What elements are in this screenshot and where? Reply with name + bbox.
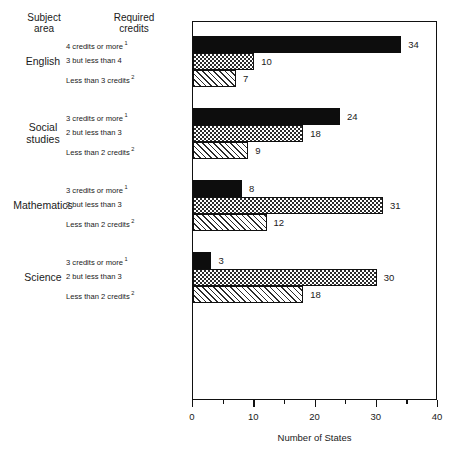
- plot-area: 34107241898311233018: [192, 21, 437, 400]
- x-axis-tick-label: 40: [432, 411, 443, 422]
- bar-social-studies-2: [193, 142, 248, 159]
- x-axis-tick-major: [253, 400, 254, 407]
- credit-row-label-text: Less than 3 credits: [66, 76, 130, 85]
- bar-english-0: [193, 36, 401, 53]
- credit-row-footnote-marker: 1: [124, 184, 127, 190]
- row-labels-column: 4 credits or more13 but less than 4Less …: [0, 0, 192, 468]
- subject-name-english: English: [4, 55, 82, 67]
- x-axis-tick-label: 0: [189, 411, 194, 422]
- credit-row-label-text: Less than 2 credits: [66, 148, 130, 157]
- subject-name-line1: Mathematics: [4, 199, 82, 211]
- bar-english-2: [193, 70, 236, 87]
- credit-row-label-text: 3 credits or more: [66, 258, 123, 267]
- bar-mathematics-1: [193, 197, 383, 214]
- bar-science-2: [193, 286, 303, 303]
- credit-row-label: Less than 2 credits2: [66, 217, 184, 229]
- x-axis-tick-minor: [284, 400, 285, 404]
- x-axis-tick-label: 30: [370, 411, 381, 422]
- bar-science-1: [193, 269, 377, 286]
- bar-social-studies-0: [193, 108, 340, 125]
- bar-value-label: 30: [384, 272, 395, 283]
- credit-row-footnote-marker: 1: [124, 112, 127, 118]
- subject-name-science: Science: [4, 271, 82, 283]
- bar-social-studies-1: [193, 125, 303, 142]
- credit-row-footnote-marker: 1: [124, 256, 127, 262]
- x-axis-tick-minor: [345, 400, 346, 404]
- credit-row-label: 3 credits or more1: [66, 183, 184, 195]
- x-axis-title: Number of States: [192, 432, 437, 443]
- credit-row-label: 2 but less than 3: [66, 128, 184, 137]
- bar-value-label: 10: [261, 56, 272, 67]
- credit-row-label-text: 3 credits or more: [66, 186, 123, 195]
- subject-name-line2: studies: [4, 133, 82, 145]
- credit-row-label: 2 but less than 3: [66, 272, 184, 281]
- bars-layer: 34107241898311233018: [193, 22, 436, 399]
- credit-row-label: 3 credits or more1: [66, 111, 184, 123]
- bar-value-label: 34: [408, 39, 419, 50]
- bar-mathematics-0: [193, 180, 242, 197]
- bar-english-1: [193, 53, 254, 70]
- x-axis-tick-minor: [406, 400, 407, 404]
- x-axis-tick-label: 10: [248, 411, 259, 422]
- credit-row-footnote-marker: 2: [131, 146, 134, 152]
- credit-row-label-text: Less than 2 credits: [66, 292, 130, 301]
- x-axis-tick-major: [437, 400, 438, 407]
- credit-row-footnote-marker: 2: [131, 74, 134, 80]
- x-axis-tick-minor: [223, 400, 224, 404]
- bar-mathematics-2: [193, 214, 267, 231]
- bar-value-label: 24: [347, 111, 358, 122]
- subject-name-social-studies: Socialstudies: [4, 121, 82, 145]
- bar-value-label: 18: [310, 289, 321, 300]
- bar-value-label: 3: [218, 255, 223, 266]
- x-axis-tick-label: 20: [309, 411, 320, 422]
- credit-row-label: Less than 3 credits2: [66, 73, 184, 85]
- credit-row-label: Less than 2 credits2: [66, 289, 184, 301]
- credit-row-footnote-marker: 1: [124, 40, 127, 46]
- credit-row-label: 3 credits or more1: [66, 255, 184, 267]
- credit-row-label-text: 4 credits or more: [66, 42, 123, 51]
- bar-value-label: 7: [243, 73, 248, 84]
- bar-value-label: 9: [255, 145, 260, 156]
- bar-science-0: [193, 252, 211, 269]
- bar-value-label: 8: [249, 183, 254, 194]
- credit-row-footnote-marker: 2: [131, 218, 134, 224]
- credit-row-label: Less than 2 credits2: [66, 145, 184, 157]
- subject-name-line1: Science: [4, 271, 82, 283]
- bar-value-label: 18: [310, 128, 321, 139]
- x-axis-tick-major: [315, 400, 316, 407]
- subject-name-line1: Social: [4, 121, 82, 133]
- credit-row-footnote-marker: 2: [131, 290, 134, 296]
- subject-name-line1: English: [4, 55, 82, 67]
- bar-value-label: 31: [390, 200, 401, 211]
- credit-row-label-text: Less than 2 credits: [66, 220, 130, 229]
- credit-row-label: 4 credits or more1: [66, 39, 184, 51]
- x-axis: Number of States 010203040: [192, 400, 437, 468]
- x-axis-tick-major: [376, 400, 377, 407]
- x-axis-tick-major: [192, 400, 193, 407]
- bar-value-label: 12: [274, 217, 285, 228]
- subject-name-mathematics: Mathematics: [4, 199, 82, 211]
- credit-row-label: 3 but less than 4: [66, 56, 184, 65]
- credit-row-label: 2 but less than 3: [66, 200, 184, 209]
